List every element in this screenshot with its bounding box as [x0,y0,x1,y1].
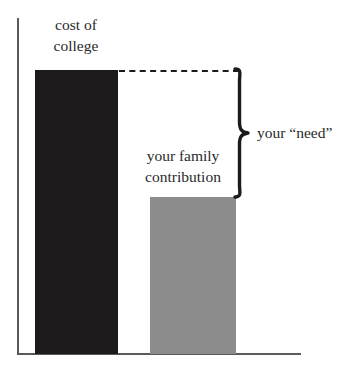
label-need-text: your “need” [257,123,351,144]
y-axis-line [17,18,19,355]
label-cost-of-college: cost of college [20,15,132,56]
bar-cost-of-college [35,70,118,354]
label-your-need: your “need” [257,123,351,144]
label-family-contribution: your family contribution [128,146,238,187]
label-cost-line-2: college [20,36,132,57]
label-cost-line-1: cost of [20,15,132,36]
cost-level-dashed-line [119,70,239,72]
label-contribution-line-2: contribution [128,167,238,188]
bar-family-contribution [150,197,236,354]
label-contribution-line-1: your family [128,146,238,167]
college-cost-need-chart: cost of college your family contribution… [0,0,351,374]
